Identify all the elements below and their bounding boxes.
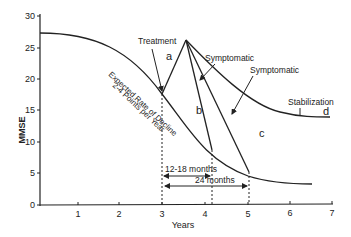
expected-decline-curve	[40, 33, 312, 184]
label-b: b	[196, 104, 202, 116]
y-axis-title: MMSE	[17, 117, 27, 144]
svg-text:1: 1	[75, 209, 80, 219]
treatment-arrow	[152, 49, 162, 91]
svg-text:0: 0	[30, 200, 35, 210]
svg-text:5: 5	[30, 168, 35, 178]
symptomatic-label-1: Symptomatic	[205, 53, 255, 63]
svg-text:4: 4	[202, 209, 207, 219]
svg-text:15: 15	[25, 105, 35, 115]
range-label-24: 24 months	[195, 175, 235, 185]
svg-text:20: 20	[25, 74, 35, 84]
y-tick-labels: 0 5 10 15 20 25 30	[25, 11, 35, 210]
label-c: c	[259, 127, 265, 139]
symptomatic-label-2: Symptomatic	[250, 65, 300, 75]
svg-text:2: 2	[116, 209, 121, 219]
symptomatic-arrow-1	[200, 64, 215, 80]
svg-text:6: 6	[287, 208, 292, 218]
symptomatic-arrow-2	[232, 76, 253, 114]
svg-text:3: 3	[159, 209, 164, 219]
svg-text:5: 5	[245, 209, 250, 219]
svg-text:7: 7	[329, 208, 334, 218]
line-a-treatment	[162, 40, 186, 94]
range-label-12-18: 12-18 months	[165, 164, 217, 174]
svg-text:25: 25	[25, 43, 35, 53]
label-a: a	[166, 50, 173, 62]
svg-text:30: 30	[25, 11, 35, 21]
x-axis-title: Years	[172, 220, 195, 230]
label-d: d	[323, 105, 329, 117]
x-axis	[40, 204, 333, 205]
mmse-chart: 0 5 10 15 20 25 30 1 2 3 4 5 6 7 Years M…	[0, 0, 351, 237]
x-tick-labels: 1 2 3 4 5 6 7	[75, 208, 334, 219]
treatment-label: Treatment	[138, 36, 177, 46]
